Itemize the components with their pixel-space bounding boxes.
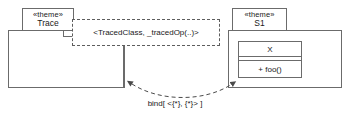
- template-parameter-box[interactable]: <TracedClass, _tracedOp(..)>: [72, 19, 220, 46]
- template-connector-descender: [124, 46, 125, 88]
- class-box-x[interactable]: X + foo(): [238, 41, 302, 78]
- template-parameter-text: <TracedClass, _tracedOp(..)>: [93, 28, 199, 37]
- package-tab-trace[interactable]: «theme» Trace: [22, 8, 74, 31]
- package-name-s1: S1: [254, 19, 264, 29]
- package-tab-s1[interactable]: «theme» S1: [232, 8, 287, 31]
- bind-arrow-path: [132, 84, 232, 98]
- package-name-trace: Trace: [37, 19, 58, 29]
- class-operations-compartment: + foo(): [239, 61, 301, 77]
- uml-template-binding-diagram: «theme» Trace <TracedClass, _tracedOp(..…: [0, 0, 350, 118]
- bind-arrow-label: bind[ <{*}, {*}> ]: [115, 99, 235, 108]
- class-name-compartment: X: [239, 42, 301, 57]
